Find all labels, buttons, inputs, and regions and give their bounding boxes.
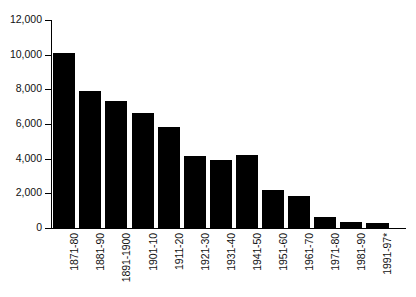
y-axis-tick-label: 4,000 — [0, 153, 42, 164]
x-axis-tick-label-wrapper: 1961-70 — [304, 233, 315, 271]
x-axis-tick-label-wrapper: 1871-80 — [69, 233, 80, 271]
x-axis-tick-label-wrapper: 1901-10 — [148, 233, 159, 271]
bar — [132, 113, 154, 228]
bar — [340, 222, 362, 228]
x-axis-tick-label: 1991-97* — [382, 233, 393, 275]
x-axis-tick-label: 1981-90 — [356, 233, 367, 271]
bar — [105, 101, 127, 228]
x-axis-line — [51, 228, 406, 229]
y-axis-tick-label: 6,000 — [0, 118, 42, 129]
y-axis-tick-label: 0 — [0, 222, 42, 233]
x-axis-tick-label-wrapper: 1941-50 — [252, 233, 263, 271]
bar — [314, 217, 336, 228]
bar — [288, 196, 310, 228]
bar — [262, 190, 284, 228]
x-axis-tick-label: 1971-80 — [330, 233, 341, 271]
bar — [53, 53, 75, 228]
bar — [184, 156, 206, 228]
y-axis-tick-label: 8,000 — [0, 83, 42, 94]
bar-chart: 02,0004,0006,0008,00010,00012,000 1871-8… — [0, 0, 416, 297]
bar — [158, 127, 180, 228]
bars-layer — [51, 20, 406, 228]
y-axis-tick-label: 12,000 — [0, 14, 42, 25]
x-axis-tick-label: 1871-80 — [69, 233, 80, 271]
bar — [210, 160, 232, 228]
x-axis-tick-label-wrapper: 1991-97* — [382, 233, 393, 275]
x-axis-tick-label: 1951-60 — [278, 233, 289, 271]
y-axis-tick — [45, 228, 51, 229]
x-axis-tick-label: 1911-20 — [174, 233, 185, 270]
x-axis-tick-label: 1961-70 — [304, 233, 315, 271]
x-axis-tick-label: 1941-50 — [252, 233, 263, 271]
x-axis-tick-label-wrapper: 1911-20 — [174, 233, 185, 270]
x-axis-tick-label-wrapper: 1921-30 — [200, 233, 211, 271]
y-axis-tick-label: 10,000 — [0, 49, 42, 60]
x-axis-tick-label: 1881-90 — [95, 233, 106, 271]
x-axis-tick-label: 1921-30 — [200, 233, 211, 271]
x-axis-tick-label-wrapper: 1881-90 — [95, 233, 106, 271]
y-axis-tick-label: 2,000 — [0, 187, 42, 198]
x-axis-tick-label: 1891-1900 — [121, 233, 132, 282]
x-axis-tick-label-wrapper: 1891-1900 — [121, 233, 132, 282]
x-axis-tick-label-wrapper: 1971-80 — [330, 233, 341, 271]
bar — [366, 223, 388, 228]
bar — [79, 91, 101, 228]
x-axis-tick-label: 1931-40 — [226, 233, 237, 271]
x-axis-tick-label-wrapper: 1981-90 — [356, 233, 367, 271]
bar — [236, 155, 258, 228]
x-axis-tick-label-wrapper: 1931-40 — [226, 233, 237, 271]
x-axis-tick-label: 1901-10 — [148, 233, 159, 271]
x-axis-tick-label-wrapper: 1951-60 — [278, 233, 289, 271]
